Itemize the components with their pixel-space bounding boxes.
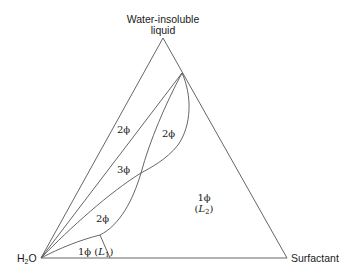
vertex-h2o-label: H2O [17,253,37,264]
triangle-outline [41,38,287,258]
vertex-top-label: Water-insoluble liquid [125,14,201,36]
l1-close: ) [109,246,113,257]
h2o-h: H [17,252,25,264]
region-upper-2phase: 2ϕ [162,128,175,139]
vertex-surfactant-label: Surfactant [291,253,339,264]
ternary-diagram [0,0,354,278]
l1-phase: 1ϕ [78,246,91,257]
l1-name: L [98,246,105,257]
upper-binodal-curve [41,73,189,258]
l2-name-line: (L2) [191,203,217,214]
region-1phase-l2: 1ϕ (L2) [191,192,217,214]
region-1phase-l1: 1ϕ (L1) [78,246,113,257]
tie-line-h2o-to-plait [41,73,182,258]
region-left-2phase: 2ϕ [117,124,130,135]
region-lower-2phase: 2ϕ [96,213,109,224]
h2o-o: O [29,252,37,264]
region-3phase: 3ϕ [117,164,130,175]
l2-phase: 1ϕ [191,192,217,203]
l2-close: ) [210,203,214,214]
vertex-top-line2: liquid [125,25,201,36]
